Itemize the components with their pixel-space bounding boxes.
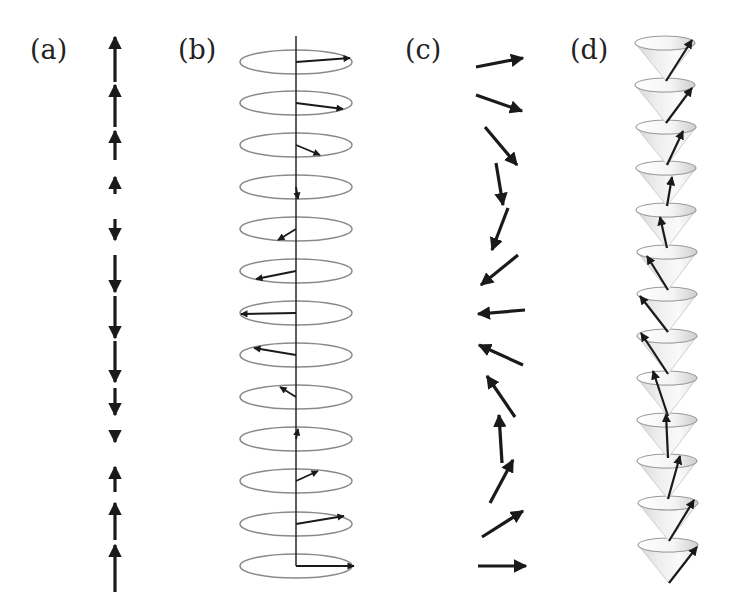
- spin-arrow-icon: [476, 95, 522, 111]
- spin-arrow-icon: [296, 145, 320, 155]
- precession-cone: [637, 287, 697, 332]
- spin-arrow-icon: [499, 415, 502, 463]
- precession-cone: [636, 203, 696, 248]
- figure-canvas: [0, 0, 733, 610]
- precession-cone: [637, 329, 697, 374]
- spin-arrow-icon: [481, 255, 518, 285]
- spin-arrow-icon: [490, 460, 513, 503]
- panel-b-helical-spiral: [240, 36, 354, 578]
- precession-cone: [637, 413, 697, 458]
- spin-arrow-icon: [278, 229, 296, 240]
- panel-label-b: (b): [178, 36, 216, 63]
- spin-arrow-icon: [241, 313, 296, 314]
- precession-cone: [637, 371, 697, 416]
- spin-arrow-icon: [487, 376, 515, 417]
- spin-arrow-icon: [256, 271, 296, 279]
- precession-cone: [638, 538, 698, 583]
- spin-arrow-icon: [296, 103, 343, 109]
- panel-label-c: (c): [405, 36, 441, 63]
- precession-cone: [638, 496, 698, 541]
- spin-arrow-icon: [482, 511, 523, 537]
- spin-arrow-icon: [296, 58, 350, 62]
- panel-label-a: (a): [30, 36, 67, 63]
- precession-cone: [635, 36, 695, 81]
- panel-d-conical-spiral: [635, 36, 698, 583]
- spin-arrow-icon: [479, 345, 523, 365]
- spin-arrow-icon: [296, 471, 318, 481]
- spin-arrow-icon: [296, 516, 344, 524]
- spin-arrow-icon: [478, 310, 525, 314]
- spin-arrow-icon: [476, 58, 523, 67]
- panel-label-d: (d): [570, 36, 608, 63]
- spin-arrow-icon: [254, 348, 296, 355]
- spin-arrow-icon: [280, 387, 296, 397]
- panel-c-cycloidal-spiral: [476, 58, 526, 566]
- precession-cone: [636, 120, 696, 165]
- precession-cone: [636, 161, 696, 206]
- spin-arrow-icon: [496, 163, 503, 205]
- precession-cone: [637, 454, 697, 499]
- precession-cone: [637, 245, 697, 290]
- precession-cone: [635, 78, 695, 123]
- spin-arrow-icon: [485, 127, 517, 165]
- spin-arrow-icon: [492, 208, 508, 250]
